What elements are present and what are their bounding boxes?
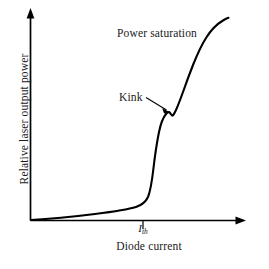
laser-li-curve-figure: Relative laser output power Diode curren… [0, 0, 269, 269]
x-axis-arrowhead [236, 217, 247, 225]
threshold-subscript: th [142, 227, 148, 236]
y-axis-arrowhead [27, 8, 35, 19]
x-axis-label: Diode current [84, 240, 214, 252]
threshold-current-tick-label: Ith [130, 222, 156, 234]
power-saturation-annotation: Power saturation [117, 27, 197, 39]
li-curve [31, 18, 229, 220]
y-axis-label: Relative laser output power [18, 29, 30, 209]
kink-annotation: Kink [119, 91, 143, 103]
kink-arrow [146, 98, 170, 114]
kink-arrow-line [146, 98, 167, 111]
